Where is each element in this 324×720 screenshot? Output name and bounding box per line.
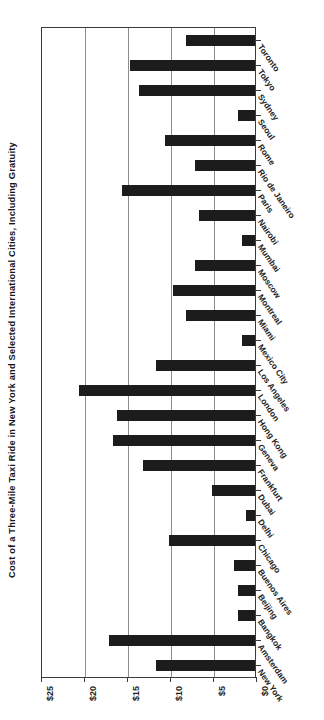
value-tick-0 (256, 677, 257, 682)
value-tick-label-text: $5 (217, 686, 227, 696)
bar (242, 235, 255, 246)
category-label-nairobi: Nairobi (256, 217, 281, 246)
bar-row (242, 228, 255, 253)
bar-row (143, 453, 255, 478)
bar (113, 435, 255, 446)
bar (156, 660, 255, 671)
bar (195, 260, 255, 271)
bar (165, 135, 255, 146)
category-label-delhi: Delhi (256, 517, 276, 540)
bar (173, 285, 255, 296)
chart-root: Cost of a Three-Mile Taxi Ride in New Yo… (0, 0, 324, 720)
value-tick-label-5: $5 (217, 686, 227, 696)
category-axis-labels: TorontoTokyoSydneySeoulRomeRio de Janeir… (258, 27, 324, 677)
bar-row (173, 278, 255, 303)
gridline-15 (128, 28, 129, 677)
bar (122, 185, 255, 196)
bar (130, 60, 255, 71)
value-tick-label-text: $20 (88, 686, 98, 701)
bar (195, 160, 255, 171)
bar (109, 635, 255, 646)
value-axis: $0$5$10$15$20$25 (41, 677, 257, 720)
bar-row (122, 178, 255, 203)
bar-row (186, 303, 255, 328)
value-tick-label-20: $20 (88, 686, 98, 701)
bar (186, 35, 255, 46)
bar-row (238, 578, 255, 603)
bar (143, 460, 255, 471)
bar-row (165, 128, 255, 153)
bar-row (246, 503, 255, 528)
value-tick-25 (41, 677, 42, 682)
bar-row (212, 478, 255, 503)
bar (169, 535, 255, 546)
bar (238, 585, 255, 596)
value-tick-10 (170, 677, 171, 682)
bar (199, 210, 255, 221)
category-label-sydney: Sydney (256, 92, 281, 122)
bar-row (195, 253, 255, 278)
bar-row (186, 28, 255, 53)
bar (242, 335, 255, 346)
value-tick-20 (84, 677, 85, 682)
bar (234, 560, 256, 571)
bar (186, 310, 255, 321)
bar (246, 510, 255, 521)
value-tick-label-25: $25 (45, 686, 55, 701)
value-tick-label-text: $0 (260, 686, 270, 696)
plot-area (41, 27, 256, 677)
bar-row (242, 328, 255, 353)
bar (238, 110, 255, 121)
bar (117, 410, 255, 421)
value-tick-label-text: $10 (174, 686, 184, 701)
value-tick-label-10: $10 (174, 686, 184, 701)
value-tick-label-15: $15 (131, 686, 141, 701)
bar-row (238, 103, 255, 128)
bar-row (156, 353, 255, 378)
value-tick-15 (127, 677, 128, 682)
category-label-rome: Rome (256, 142, 278, 167)
bar (79, 385, 255, 396)
bar (212, 485, 255, 496)
value-tick-5 (213, 677, 214, 682)
bar-row (234, 553, 256, 578)
value-tick-label-text: $15 (131, 686, 141, 701)
bar (139, 85, 255, 96)
bar-row (199, 203, 255, 228)
bar-row (238, 603, 255, 628)
bar-row (195, 153, 255, 178)
chart-title: Cost of a Three-Mile Taxi Ride in New Yo… (0, 0, 24, 720)
gridline-20 (85, 28, 86, 677)
bar (156, 360, 255, 371)
bar (238, 610, 255, 621)
bar-row (109, 628, 255, 653)
bar-row (169, 528, 255, 553)
value-tick-label-text: $25 (45, 686, 55, 701)
chart-title-text: Cost of a Three-Mile Taxi Ride in New Yo… (7, 142, 17, 578)
bar-row (130, 53, 255, 78)
bar-row (79, 378, 255, 403)
bar-row (113, 428, 255, 453)
bar-row (139, 78, 255, 103)
value-tick-label-0: $0 (260, 686, 270, 696)
bar-row (117, 403, 255, 428)
bar-row (156, 653, 255, 678)
